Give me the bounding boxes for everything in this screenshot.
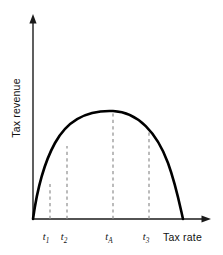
tick-label-t2-subscript: 2 [64,237,68,245]
x-axis-title: Tax rate [163,231,202,243]
tick-label-t1-subscript: 1 [46,237,50,245]
y-axis-title: Tax revenue [10,78,22,137]
tick-label-t3-subscript: 3 [145,237,150,245]
tick-label-ta-subscript: A [107,237,113,245]
laffer-curve-figure: t1 t2 tA t3 Tax rate Tax revenue [0,0,223,255]
